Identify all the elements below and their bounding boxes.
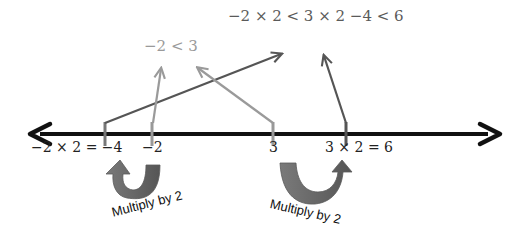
arrow-3-to-small: [198, 68, 273, 123]
label-6: 3 × 2 = 6: [325, 139, 393, 155]
arrow-neg4-to-top: [105, 54, 281, 123]
arrow-neg2-to-small: [153, 69, 161, 123]
arrow-6-to-top: [324, 56, 346, 123]
label-neg2: −2: [142, 139, 163, 155]
number-line-diagram: [0, 0, 523, 241]
curved-arrow-right-icon: [280, 160, 352, 204]
label-neg4: −2 × 2 = −4: [31, 139, 122, 155]
pointer-arrows: [105, 54, 346, 123]
label-3: 3: [269, 139, 278, 155]
curved-arrow-left-icon: [106, 160, 160, 199]
combined-inequality: −2 × 2 < 3 × 2 −4 < 6: [228, 7, 404, 25]
simple-inequality: −2 < 3: [144, 37, 198, 55]
